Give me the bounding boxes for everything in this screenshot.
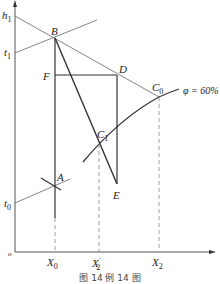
diagram-canvas	[0, 0, 220, 284]
point-A: A	[57, 172, 64, 183]
y-axis-arrow	[13, 0, 17, 7]
point-C1: C1	[97, 129, 108, 143]
point-B: B	[51, 26, 58, 37]
label-origin: o	[8, 251, 12, 258]
label-t1: t1	[4, 47, 11, 61]
point-D: D	[119, 64, 127, 75]
curve-label-phi: φ = 60%	[183, 86, 219, 96]
h1-enthalpy-line	[15, 16, 159, 97]
label-X2: X2	[152, 257, 163, 271]
point-C0: C0	[152, 82, 163, 96]
point-F: F	[43, 71, 50, 82]
figure-caption: 图 14 例 14 图	[0, 271, 220, 284]
label-h1: h1	[2, 10, 12, 24]
label-X2-prime: X′2	[92, 257, 100, 272]
phi-60-curve	[83, 89, 179, 162]
point-E: E	[113, 190, 120, 201]
line-B-E	[55, 38, 117, 184]
label-X0: X0	[47, 257, 58, 271]
x-axis-arrow	[209, 250, 216, 254]
label-t0: t0	[4, 198, 11, 212]
